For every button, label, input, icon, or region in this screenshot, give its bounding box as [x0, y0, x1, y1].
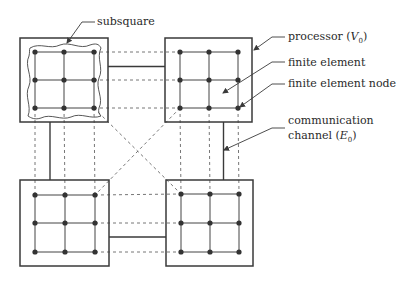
processor-leader — [254, 37, 285, 50]
label-communication-line2: channel (E0) — [288, 129, 374, 147]
label-subsquare: subsquare — [97, 15, 155, 28]
label-finite-element-node-text: finite element node — [288, 77, 396, 90]
label-subsquare-text: subsquare — [97, 15, 155, 28]
processor-close-paren: ) — [363, 30, 367, 43]
channel-symbol: E — [340, 129, 348, 142]
label-finite-element-text: finite element — [288, 56, 365, 69]
finite-element-node-leader — [240, 84, 285, 107]
label-communication-line1: communication — [288, 114, 374, 127]
finite-element-leader — [223, 62, 285, 93]
label-communication-channel: communication channel (E0) — [288, 114, 374, 147]
label-channel-text: channel ( — [288, 129, 340, 142]
label-finite-element-node: finite element node — [288, 77, 396, 90]
processor-symbol: V — [351, 30, 359, 43]
label-processor: processor (V0) — [288, 30, 367, 48]
communication-channel-leader — [224, 128, 285, 150]
label-processor-text: processor ( — [288, 30, 351, 43]
diagram-canvas: subsquare processor (V0) finite element … — [0, 0, 396, 282]
channel-close-paren: ) — [352, 129, 356, 142]
subsquare-leader — [67, 22, 95, 43]
label-finite-element: finite element — [288, 56, 365, 69]
